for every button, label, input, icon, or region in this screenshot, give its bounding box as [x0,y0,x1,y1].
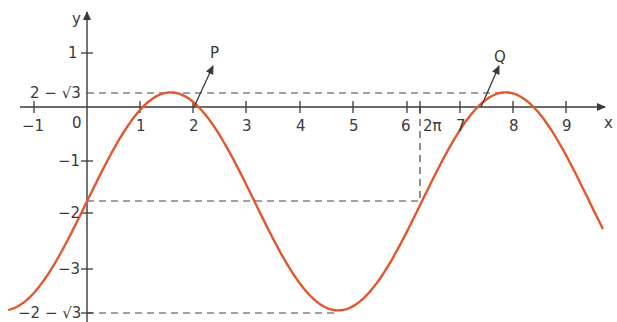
svg-text:2: 2 [189,117,199,135]
svg-text:6: 6 [401,117,411,135]
x-axis-label: x [604,114,613,132]
svg-text:1: 1 [136,117,146,135]
svg-text:−1: −1 [22,117,44,135]
svg-text:−2 − √3: −2 − √3 [18,304,81,322]
svg-text:3: 3 [242,117,252,135]
svg-text:−2: −2 [58,204,80,222]
chart: P Q x y 0 −1 1 2 3 4 5 6 2π 7 8 9 1 2 − … [0,0,617,322]
svg-text:−3: −3 [58,260,80,278]
q-arrow [481,66,499,107]
svg-text:2 − √3: 2 − √3 [30,84,81,102]
point-p-label: P [210,44,219,62]
svg-text:7: 7 [456,117,466,135]
p-arrow [194,66,213,107]
y-axis-label: y [72,10,81,28]
svg-text:5: 5 [349,117,359,135]
svg-text:8: 8 [509,117,519,135]
origin-label: 0 [72,114,82,132]
svg-text:4: 4 [296,117,306,135]
x-tick-labels: −1 1 2 3 4 5 6 2π 7 8 9 [22,117,572,135]
svg-text:2π: 2π [423,117,442,135]
point-q-label: Q [494,48,506,66]
svg-text:9: 9 [562,117,572,135]
svg-text:−1: −1 [58,152,80,170]
y-tick-labels: 1 2 − √3 −1 −2 −3 −2 − √3 [18,44,81,322]
svg-text:1: 1 [68,44,78,62]
